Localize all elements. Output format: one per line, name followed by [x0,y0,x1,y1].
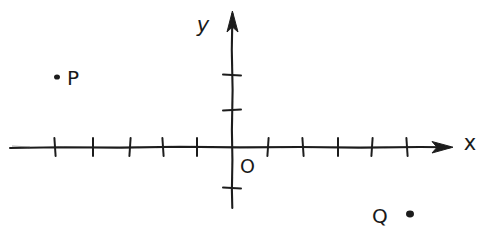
x-axis-tick [371,138,372,156]
point-dot-q [406,211,414,218]
point-label-q: Q [372,204,388,228]
y-axis-label: y [196,13,210,37]
x-axis-tick [302,138,303,156]
coordinate-plane-figure: x y O PQ [0,0,485,237]
x-axis-tick [129,138,130,156]
x-axis-tick [406,138,407,156]
x-axis-line [10,147,450,148]
y-axis-tick [223,75,241,76]
figure-canvas: x y O PQ [0,0,485,237]
x-axis-label: x [464,131,476,155]
x-axis-tick [162,138,163,156]
y-axis-tick [223,110,241,111]
y-axis-tick [223,188,241,189]
point-dot-p [54,74,60,79]
point-label-p: P [67,66,79,90]
origin-label: O [240,155,255,177]
x-axis-tick [267,138,268,156]
x-axis-tick [54,138,55,156]
paper-background [0,0,485,237]
